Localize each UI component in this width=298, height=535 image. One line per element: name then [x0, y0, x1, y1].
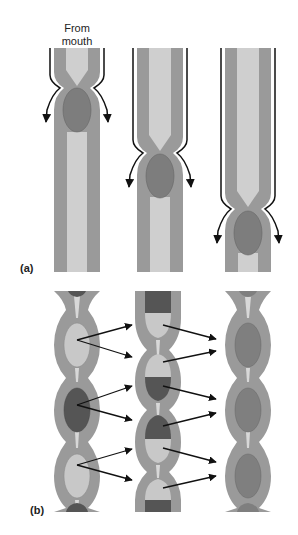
peristalsis-stage-2: [129, 48, 191, 272]
peristalsis-stage-1: [46, 48, 108, 272]
digestive-motility-diagram: [0, 0, 298, 535]
from-mouth-line-2: mouth: [58, 35, 96, 48]
peristalsis-stage-3: [217, 48, 279, 272]
segmentation-column-3: [225, 291, 271, 512]
segmentation-column-1: [54, 291, 100, 512]
panel-b-label: (b): [30, 504, 44, 517]
from-mouth-label: From mouth: [58, 22, 96, 48]
segmentation-column-2: [135, 291, 181, 512]
from-mouth-line-1: From: [58, 22, 96, 35]
panel-a-label: (a): [20, 262, 33, 275]
